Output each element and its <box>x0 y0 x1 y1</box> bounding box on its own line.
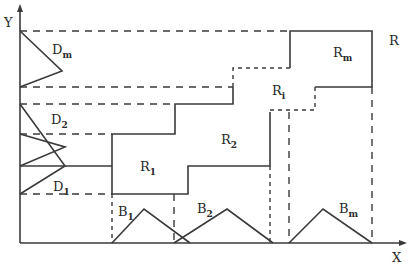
label-b2: B2 <box>197 201 213 219</box>
set-dm <box>20 31 62 87</box>
input-sets-d: Dm D2 D1 <box>20 31 112 197</box>
label-ri: Ri <box>272 83 286 101</box>
label-d2: D2 <box>51 112 68 130</box>
upper-staircase <box>112 87 233 194</box>
x-axis-arrow-icon <box>399 240 407 246</box>
label-r2: R2 <box>221 132 237 150</box>
fuzzy-partition-diagram: Y X Dm D2 D1 B1 <box>0 0 412 265</box>
set-b2 <box>174 209 273 243</box>
label-rm: Rm <box>333 45 353 63</box>
set-d2 <box>20 134 65 166</box>
y-axis-label: Y <box>3 15 13 30</box>
label-dm: Dm <box>52 42 72 60</box>
label-bm: Bm <box>339 201 359 219</box>
x-axis-label: X <box>392 250 402 265</box>
y-axis-arrow-icon <box>17 4 23 12</box>
label-r1: R1 <box>140 159 156 177</box>
label-r: R <box>389 33 400 48</box>
set-bm <box>289 209 372 243</box>
rm-box <box>290 31 372 87</box>
output-sets-b: B1 B2 Bm <box>112 201 372 243</box>
lower-staircase-solid <box>112 112 270 194</box>
label-b1: B1 <box>118 204 134 222</box>
